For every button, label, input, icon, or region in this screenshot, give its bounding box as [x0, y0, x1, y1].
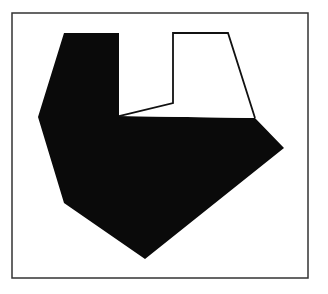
white-outlined-notch: [119, 33, 255, 118]
black-polygon: [38, 33, 284, 259]
diagram-canvas: [0, 0, 328, 294]
